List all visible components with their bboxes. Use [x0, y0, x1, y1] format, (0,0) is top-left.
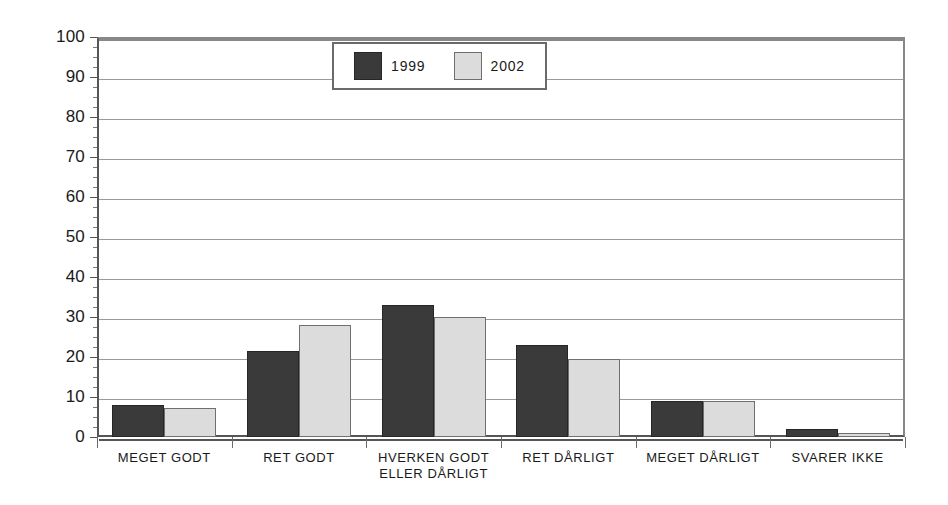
y-tick-major-10	[90, 397, 97, 398]
bar-1999-2	[382, 305, 434, 437]
x-tick	[905, 437, 906, 448]
y-tick-major-80	[90, 117, 97, 118]
y-tick-major-50	[90, 237, 97, 238]
y-tick-major-0	[90, 437, 97, 438]
y-axis-label-60: 60	[45, 187, 85, 207]
bar-group	[516, 37, 620, 437]
bar-group	[247, 37, 351, 437]
y-axis-label-30: 30	[45, 307, 85, 327]
bar-2002-3	[568, 359, 620, 437]
y-axis-label-90: 90	[45, 67, 85, 87]
y-axis-labels: 0102030405060708090100	[40, 37, 85, 437]
bar-group	[786, 37, 890, 437]
bar-2002-2	[434, 317, 486, 437]
bar-1999-0	[112, 405, 164, 437]
bar-2002-4	[703, 401, 755, 437]
x-tick	[636, 437, 637, 448]
y-axis-label-0: 0	[45, 427, 85, 447]
bar-groups	[97, 37, 905, 437]
y-tick-major-40	[90, 277, 97, 278]
x-tick	[366, 437, 367, 448]
legend-entry-1999: 1999	[354, 52, 425, 80]
legend-label-2002: 2002	[491, 58, 525, 74]
y-tick-major-20	[90, 357, 97, 358]
bar-2002-0	[164, 408, 216, 437]
y-tick-major-100	[90, 37, 97, 38]
y-tick-major-70	[90, 157, 97, 158]
bar-2002-1	[299, 325, 351, 437]
y-tick-major-90	[90, 77, 97, 78]
y-tick-major-30	[90, 317, 97, 318]
x-axis-ticks	[97, 437, 907, 449]
bar-1999-5	[786, 429, 838, 437]
chart-legend: 1999 2002	[332, 42, 547, 90]
legend-swatch-2002-icon	[454, 52, 482, 80]
legend-swatch-1999-icon	[354, 52, 382, 80]
y-axis-label-80: 80	[45, 107, 85, 127]
y-axis-label-50: 50	[45, 227, 85, 247]
bar-group	[651, 37, 755, 437]
x-tick	[770, 437, 771, 448]
bar-chart: 0102030405060708090100 MEGET GODTRET GOD…	[0, 0, 948, 505]
x-tick	[97, 437, 98, 448]
x-axis-label-5: SVARER IKKE	[750, 450, 925, 466]
bar-group	[382, 37, 486, 437]
y-axis-label-100: 100	[45, 27, 85, 47]
y-axis-label-70: 70	[45, 147, 85, 167]
legend-label-1999: 1999	[391, 58, 425, 74]
bar-1999-1	[247, 351, 299, 437]
y-tick-major-60	[90, 197, 97, 198]
legend-entry-2002: 2002	[454, 52, 525, 80]
x-tick	[501, 437, 502, 448]
y-axis-label-40: 40	[45, 267, 85, 287]
y-axis-label-20: 20	[45, 347, 85, 367]
bar-1999-3	[516, 345, 568, 437]
bar-1999-4	[651, 401, 703, 437]
x-tick	[232, 437, 233, 448]
bar-group	[112, 37, 216, 437]
y-axis-label-10: 10	[45, 387, 85, 407]
x-axis-labels: MEGET GODTRET GODTHVERKEN GODT ELLER DÅR…	[97, 450, 905, 498]
